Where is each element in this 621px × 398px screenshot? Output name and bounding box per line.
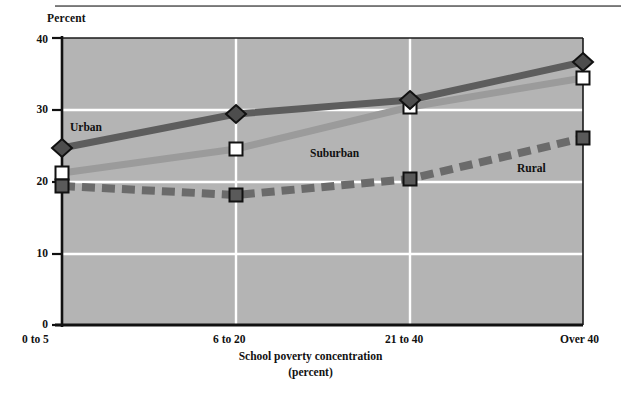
x-axis-title-sub: (percent)	[0, 366, 621, 378]
marker-rural-21to40	[404, 173, 417, 186]
series-label-suburban: Suburban	[310, 147, 359, 159]
x-tick-label-over40: Over 40	[560, 333, 599, 345]
series-label-urban: Urban	[70, 121, 102, 133]
marker-rural-6to20	[230, 189, 243, 202]
x-axis-title: School poverty concentration	[0, 350, 621, 362]
marker-rural-over40	[577, 132, 590, 145]
marker-suburban-6to20	[230, 143, 243, 156]
x-tick-label-0to5: 0 to 5	[22, 333, 49, 345]
marker-suburban-over40	[577, 72, 590, 85]
marker-suburban-0to5	[56, 167, 69, 180]
series-label-rural: Rural	[517, 162, 546, 174]
x-tick-label-6to20: 6 to 20	[213, 333, 246, 345]
chart-plot-area	[0, 0, 621, 398]
marker-rural-0to5	[56, 180, 69, 193]
figure-container: Percent 40 30 20 10 0	[0, 0, 621, 398]
x-tick-label-21to40: 21 to 40	[385, 333, 423, 345]
